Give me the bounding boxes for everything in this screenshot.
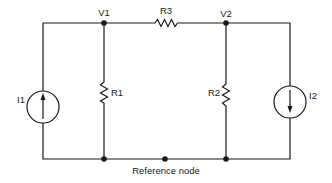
node-ref-dot-right [223,156,229,162]
label-r3: R3 [160,5,172,16]
label-reference-node: Reference node [132,165,200,176]
node-v2-dot [223,20,229,26]
wire-top-right [180,23,290,86]
resistor-r1-icon [101,80,108,105]
resistor-r3-icon [153,20,180,27]
label-i2: I2 [309,90,317,101]
node-ref-dot-left [101,156,107,162]
label-v2: V2 [220,8,232,19]
label-v1: V1 [98,7,110,18]
label-r1: R1 [111,87,123,98]
resistor-r2-icon [223,82,230,108]
label-r2: R2 [208,87,220,98]
wires [43,23,290,159]
current-source-i2-icon [274,86,306,118]
wire-top-left [43,23,153,91]
node-v1-dot [101,20,107,26]
wire-bottom [43,118,290,159]
current-source-i1-icon [27,91,59,123]
label-i1: I1 [17,94,25,105]
node-ref-dot-center [162,156,168,162]
circuit-diagram: V1 V2 R3 R1 R2 I1 I2 Reference node [0,0,332,183]
